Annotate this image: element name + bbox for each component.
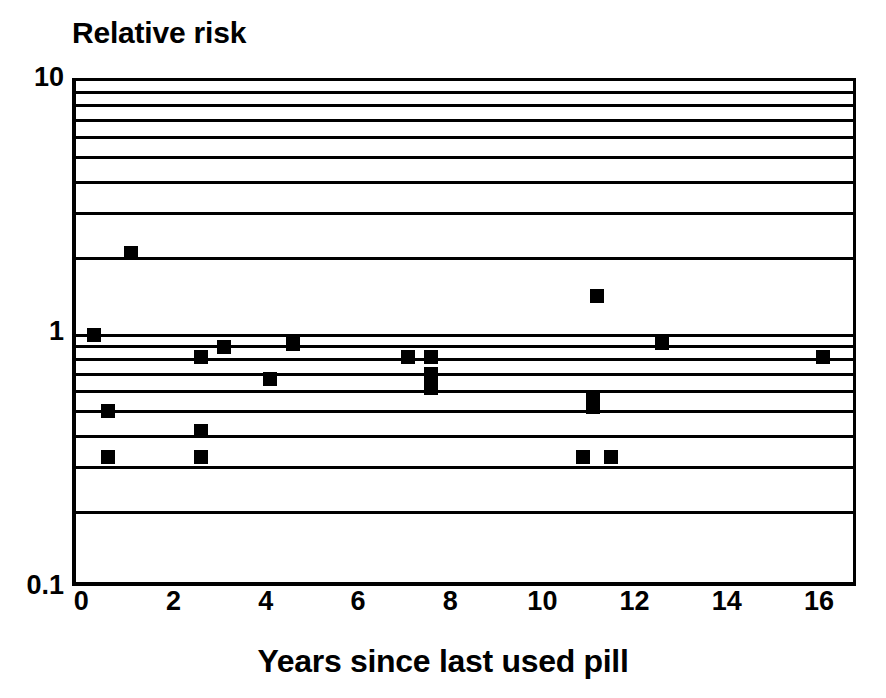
data-point xyxy=(101,404,115,418)
data-markers xyxy=(76,81,853,582)
data-point xyxy=(424,350,438,364)
data-point xyxy=(424,367,438,381)
x-axis-tick-label: 16 xyxy=(789,588,849,615)
data-point xyxy=(87,328,101,342)
data-point xyxy=(101,450,115,464)
x-axis-title: Years since last used pill xyxy=(0,645,886,677)
page-title: Relative risk xyxy=(72,18,246,48)
x-axis-tick-label: 12 xyxy=(605,588,665,615)
data-point xyxy=(590,289,604,303)
data-point xyxy=(286,337,300,351)
data-point xyxy=(424,381,438,395)
plot-area xyxy=(72,78,856,586)
data-point xyxy=(655,336,669,350)
y-axis-tick-label: 10 xyxy=(2,64,64,91)
x-axis-tick-label: 14 xyxy=(697,588,757,615)
data-point xyxy=(576,450,590,464)
x-axis-tick-label: 2 xyxy=(143,588,203,615)
x-axis-tick-label: 0 xyxy=(51,588,111,615)
data-point xyxy=(816,350,830,364)
data-point xyxy=(194,450,208,464)
data-point xyxy=(194,424,208,438)
x-axis-tick-label: 10 xyxy=(512,588,572,615)
chart-figure: Relative risk 1010.1 0246810121416 Years… xyxy=(0,0,886,698)
data-point xyxy=(401,350,415,364)
x-axis-tick-label: 6 xyxy=(328,588,388,615)
data-point xyxy=(124,246,138,260)
data-point xyxy=(263,372,277,386)
y-axis-tick-label: 1 xyxy=(2,318,64,345)
data-point xyxy=(586,400,600,414)
data-point xyxy=(217,340,231,354)
x-axis-tick-label: 4 xyxy=(236,588,296,615)
data-point xyxy=(604,450,618,464)
data-point xyxy=(194,350,208,364)
x-axis-tick-label: 8 xyxy=(420,588,480,615)
